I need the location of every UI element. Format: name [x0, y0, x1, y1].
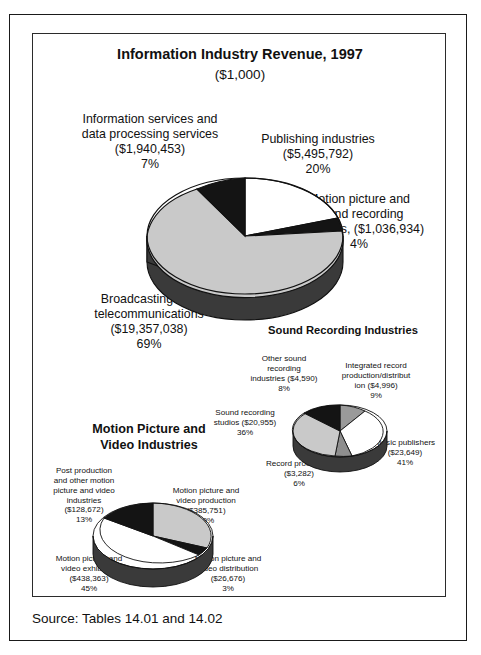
chart1-label-information-services: Information services and data processing… — [55, 112, 245, 173]
chart1-title: Information Industry Revenue, 1997 — [33, 46, 447, 62]
chart2-pie — [290, 400, 390, 466]
chart1-subtitle: ($1,000) — [33, 67, 447, 82]
chart3-title: Motion Picture and Video Industries — [65, 422, 233, 453]
chart2-label-other-sound-recording: Other sound recording industries ($4,590… — [241, 354, 327, 393]
chart1-pie — [141, 174, 349, 306]
chart1-label-publishing-industries: Publishing industries ($5,495,792) 20% — [239, 132, 397, 177]
chart-panel: Information Industry Revenue, 1997 ($1,0… — [32, 33, 446, 597]
chart3-pie — [89, 496, 217, 580]
source-note: Source: Tables 14.01 and 14.02 — [32, 611, 222, 626]
figure-outer-frame: Information Industry Revenue, 1997 ($1,0… — [9, 14, 467, 641]
chart2-label-integrated-record-production: Integrated record production/distribut i… — [331, 361, 421, 400]
chart2-title: Sound Recording Industries — [243, 323, 443, 337]
page-heading: COMMUNICATIONS — [0, 0, 481, 6]
